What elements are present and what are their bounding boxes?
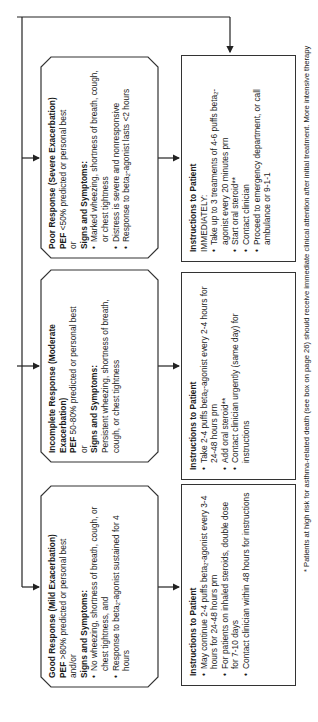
- signs-text: Persistent wheezing, shortness of breath…: [100, 277, 121, 453]
- list-item: Start oral steroid**: [230, 63, 241, 252]
- moderate-response-box: Incomplete Response (Moderate Exacerbati…: [41, 270, 158, 462]
- list-item: For patients on inhaled steroids, double…: [220, 492, 241, 676]
- footnote: * Patients at high risk for asthma-relat…: [302, 0, 311, 572]
- list-item: Marked wheezing, shortness of breath, co…: [89, 64, 110, 249]
- instructions-subtitle: IMMEDIATELY:: [199, 63, 210, 252]
- connector-text: or: [68, 64, 79, 249]
- list-item: Response to beta2-agonist sustained for …: [111, 493, 132, 678]
- pef-label: PEF: [68, 437, 78, 453]
- connector-text: or: [79, 277, 90, 453]
- flowchart-page: Good Response (Mild Exacerbation) PEF >8…: [0, 0, 318, 722]
- pef-label: PEF: [58, 233, 68, 249]
- pef-label: PEF: [58, 662, 68, 678]
- list-item: No wheezing, shortness of breath, cough,…: [89, 493, 110, 678]
- good-response-title: Good Response (Mild Exacerbation): [47, 493, 58, 678]
- instructions-title: Instructions to Patient: [188, 492, 199, 676]
- poor-response-title: Poor Response (Severe Exacerbation): [47, 64, 58, 249]
- list-item: May continue 2-4 puffs beta2-agonist eve…: [199, 492, 220, 676]
- moderate-instructions-box: Instructions to Patient Take 2-4 puffs b…: [181, 272, 296, 480]
- list-item: Contact clinician: [241, 63, 252, 252]
- good-response-box: Good Response (Mild Exacerbation) PEF >8…: [41, 486, 158, 687]
- pef-text: >80% predicted or personal best: [58, 539, 68, 660]
- list-item: Proceed to emergency department, or call…: [252, 63, 273, 252]
- poor-response-box: Poor Response (Severe Exacerbation) PEF …: [41, 57, 158, 258]
- signs-label: Signs and Symptoms:: [79, 493, 90, 678]
- list-item: Contact clinician within 48 hours for in…: [241, 492, 252, 676]
- signs-label: Signs and Symptoms:: [89, 277, 100, 453]
- good-instructions-box: Instructions to Patient May continue 2-4…: [181, 484, 296, 686]
- list-item: Response to beta2-agonist lasts <2 hours: [121, 64, 132, 249]
- moderate-response-title: Incomplete Response (Moderate Exacerbati…: [47, 277, 68, 453]
- list-item: Take up to 3 treatments of 4-6 puffs bet…: [209, 63, 230, 252]
- list-item: Take 2-4 puffs beta2-agonist every 2-4 h…: [199, 280, 220, 470]
- list-item: Add oral steroid**: [220, 280, 231, 470]
- instructions-title: Instructions to Patient: [188, 280, 199, 470]
- list-item: Distress is severe and nonresponsive: [111, 64, 122, 249]
- instructions-title: Instructions to Patient: [188, 63, 199, 252]
- connector-text: and/or: [68, 493, 79, 678]
- list-item: Contact clinician urgently (same day) fo…: [230, 280, 251, 470]
- pef-text: <50% predicted or personal best: [58, 110, 68, 231]
- poor-instructions-box: Instructions to Patient IMMEDIATELY: Tak…: [181, 55, 296, 262]
- signs-label: Signs and Symptoms:: [79, 64, 90, 249]
- pef-text: 50-80% predicted or personal best: [68, 306, 78, 434]
